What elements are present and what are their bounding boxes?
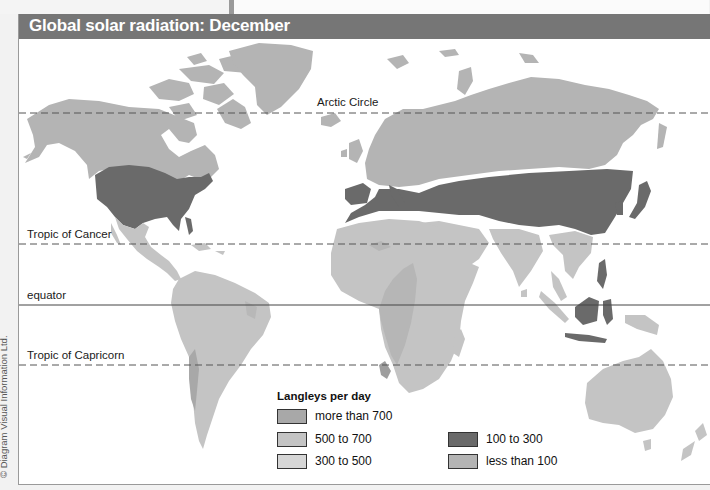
legend-swatch [448, 432, 478, 447]
south-america [171, 271, 271, 449]
legend-swatch [277, 409, 307, 424]
equator-label: equator [27, 289, 66, 301]
legend-title: Langleys per day [277, 390, 371, 402]
legend-swatch [448, 454, 478, 469]
title-bar: Global solar radiation: December [19, 14, 710, 39]
legend-item-100-to-300: 100 to 300 [448, 431, 543, 447]
top-page-strip [0, 0, 709, 14]
tropic-of-cancer-label: Tropic of Cancer [27, 228, 112, 240]
legend-item-more-than-700: more than 700 [277, 408, 392, 424]
legend-label: more than 700 [315, 409, 392, 423]
copyright-credit: © Diagram Visual Information Ltd. [0, 335, 9, 478]
arctic-circle-label: Arctic Circle [317, 96, 378, 108]
page-background [234, 0, 709, 14]
legend-label: 500 to 700 [315, 432, 372, 446]
tropic-of-capricorn-label: Tropic of Capricorn [27, 349, 124, 361]
legend: Langleys per day more than 700 500 to 70… [277, 390, 637, 480]
legend-item-300-to-500: 300 to 500 [277, 453, 372, 469]
legend-label: less than 100 [486, 454, 557, 468]
legend-swatch [277, 454, 307, 469]
map-title: Global solar radiation: December [29, 16, 290, 36]
legend-swatch [277, 432, 307, 447]
map-figure: Global solar radiation: December [18, 14, 710, 485]
legend-item-500-to-700: 500 to 700 [277, 431, 372, 447]
legend-label: 100 to 300 [486, 432, 543, 446]
north-america [23, 43, 313, 281]
legend-label: 300 to 500 [315, 454, 372, 468]
legend-item-less-than-100: less than 100 [448, 453, 557, 469]
